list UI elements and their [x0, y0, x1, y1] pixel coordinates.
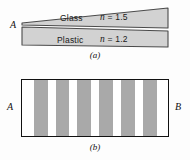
- fringe-band: [99, 80, 113, 136]
- fringe-band: [34, 80, 48, 136]
- optics-figure: Glass n = 1.5 Plastic n = 1.2 A (a) A B …: [0, 0, 190, 160]
- point-a-vertex-label: A: [10, 19, 16, 30]
- fringe-band: [77, 80, 91, 136]
- fringe-left-label-a: A: [7, 101, 13, 112]
- panel-b-fringe-pattern: [21, 79, 169, 137]
- plastic-layer-label: Plastic: [57, 35, 83, 45]
- glass-refractive-index-label: n = 1.5: [100, 12, 128, 22]
- plastic-slab-shape: [22, 27, 168, 47]
- fringe-band: [143, 80, 157, 136]
- interference-fringe-strip: [22, 80, 168, 136]
- fringe-band: [56, 80, 70, 136]
- panel-a-caption: (a): [0, 50, 190, 60]
- glass-layer-label: Glass: [60, 13, 83, 23]
- glass-slab-shape: [22, 8, 168, 28]
- panel-b-caption: (b): [0, 142, 190, 152]
- fringe-right-label-b: B: [175, 101, 181, 112]
- plastic-refractive-index-label: n = 1.2: [100, 34, 128, 44]
- glass-n-value: = 1.5: [105, 12, 128, 22]
- plastic-n-value: = 1.2: [105, 34, 128, 44]
- fringe-band: [121, 80, 135, 136]
